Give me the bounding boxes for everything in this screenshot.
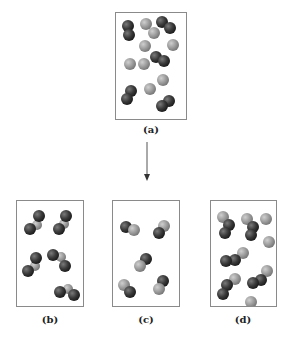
- panel-b-box: [16, 200, 84, 307]
- panel-c-molecules: [113, 201, 179, 306]
- panel-c-box: [112, 200, 180, 307]
- panel-d-molecules: [211, 201, 276, 306]
- panel-a-box: [115, 12, 187, 120]
- panel-a-label: (a): [131, 124, 171, 135]
- panel-d-label: (d): [223, 314, 263, 325]
- panel-b-label: (b): [30, 314, 70, 325]
- panel-a-molecules: [116, 13, 186, 119]
- reaction-arrow-icon: [143, 142, 151, 182]
- panel-b-molecules: [17, 201, 83, 306]
- panel-d-box: [210, 200, 277, 307]
- panel-c-label: (c): [126, 314, 166, 325]
